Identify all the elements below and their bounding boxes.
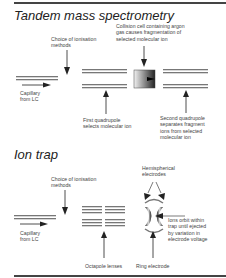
second-quadrupole-arrow-icon: [183, 90, 189, 113]
tandem-ionisation-arrow-icon: [64, 50, 70, 75]
iontrap-capillary-icon: [14, 215, 56, 227]
ion-orbit-arrow-icon: [155, 213, 185, 219]
collision-cell-icon: [134, 70, 155, 88]
first-quadrupole-arrow-icon: [103, 90, 109, 114]
collision-cell-arrow-icon: [141, 46, 147, 67]
octapole-arrow-icon: [101, 231, 107, 258]
first-quadrupole-icon: [82, 69, 127, 88]
second-quadrupole-icon: [163, 69, 208, 88]
ring-electrode-arrow-icon: [150, 231, 156, 258]
hemispherical-arrows-icon: [144, 182, 165, 200]
iontrap-ionisation-arrow-icon: [62, 190, 68, 215]
tandem-capillary-icon: [16, 76, 58, 88]
diagram-graphics: [0, 0, 226, 278]
octapole-lenses-icon: [82, 206, 125, 226]
